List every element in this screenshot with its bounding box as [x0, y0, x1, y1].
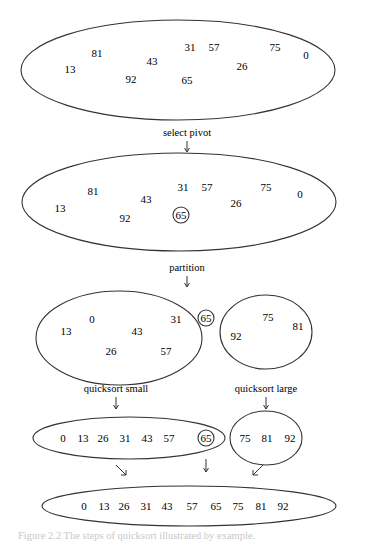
value-label: 81 [92, 47, 103, 59]
pivot-value: 65 [201, 432, 213, 444]
value-label: 57 [187, 500, 199, 512]
value-label: 43 [132, 325, 144, 337]
partition-label: partition [169, 262, 205, 273]
value-label: 81 [256, 500, 267, 512]
value-label: 13 [55, 202, 67, 214]
value-label: 81 [262, 432, 273, 444]
value-label: 0 [89, 313, 95, 325]
value-label: 26 [106, 345, 118, 357]
value-label: 65 [182, 74, 194, 86]
value-label: 92 [278, 500, 289, 512]
quicksort-small-label: quicksort small [84, 383, 149, 394]
value-label: 81 [293, 320, 304, 332]
value-label: 13 [65, 63, 77, 75]
value-label: 26 [237, 60, 249, 72]
value-label: 75 [261, 181, 273, 193]
value-label: 26 [231, 197, 243, 209]
merge-arrow-icon [116, 465, 126, 475]
value-label: 75 [263, 311, 275, 323]
pivot-set-ellipse [22, 153, 336, 251]
value-label: 31 [171, 313, 182, 325]
merge-arrow-icon [253, 465, 263, 475]
value-label: 57 [161, 345, 173, 357]
value-label: 31 [141, 500, 152, 512]
value-label: 0 [60, 432, 66, 444]
value-label: 92 [120, 212, 131, 224]
value-label: 92 [231, 330, 242, 342]
value-label: 92 [126, 73, 137, 85]
value-label: 75 [270, 41, 282, 53]
pivot-stage-values: 8113439231572675065 [55, 181, 304, 224]
value-label: 13 [99, 500, 111, 512]
value-label: 0 [297, 188, 303, 200]
value-label: 43 [142, 432, 154, 444]
quicksort-diagram: 8113439231576526750 select pivot 8113439… [0, 0, 375, 541]
value-label: 92 [285, 432, 296, 444]
select-pivot-label: select pivot [163, 127, 211, 138]
value-label: 31 [120, 432, 131, 444]
pivot-value: 65 [176, 209, 188, 221]
final-sorted-values: 0132631435765758192 [81, 500, 288, 512]
value-label: 43 [162, 500, 174, 512]
value-label: 26 [98, 432, 110, 444]
small-partition-ellipse [36, 291, 202, 385]
value-label: 13 [61, 325, 73, 337]
value-label: 57 [202, 181, 214, 193]
partition-values: 0134331265765758192 [61, 311, 304, 357]
initial-values: 8113439231576526750 [65, 41, 310, 86]
value-label: 57 [164, 432, 176, 444]
value-label: 65 [211, 500, 223, 512]
value-label: 0 [303, 49, 309, 61]
value-label: 31 [178, 181, 189, 193]
figure-caption: Figure 2.2 The steps of quicksort illust… [18, 530, 255, 541]
value-label: 26 [119, 500, 131, 512]
value-label: 75 [240, 432, 252, 444]
pivot-value: 65 [201, 312, 213, 324]
value-label: 43 [147, 55, 159, 67]
value-label: 31 [185, 41, 196, 53]
value-label: 75 [233, 500, 245, 512]
value-label: 0 [81, 500, 87, 512]
value-label: 81 [88, 185, 99, 197]
sorted-partition-values: 0132631435765758192 [60, 432, 295, 444]
quicksort-large-label: quicksort large [235, 383, 298, 394]
value-label: 13 [78, 432, 90, 444]
value-label: 57 [209, 41, 221, 53]
value-label: 43 [141, 193, 153, 205]
